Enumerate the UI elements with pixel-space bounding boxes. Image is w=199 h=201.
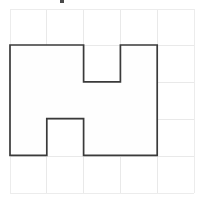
- speck-mark-icon: [60, 0, 64, 3]
- grid-figure-svg: [0, 0, 199, 201]
- figure-canvas: [0, 0, 199, 201]
- polygon-shape-outline: [10, 45, 157, 155]
